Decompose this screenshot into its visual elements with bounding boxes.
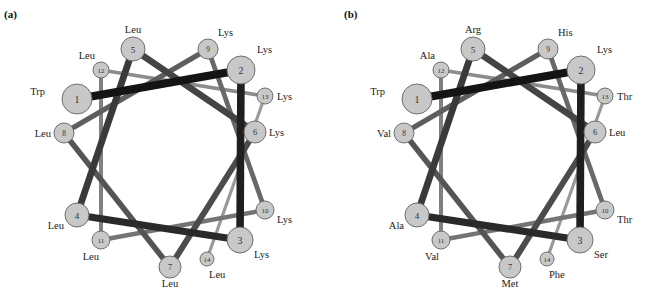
residue-name: Phe	[549, 269, 565, 280]
residue-name: Trp	[370, 86, 385, 97]
residue-node-12: 12Leu	[79, 50, 109, 78]
residue-number: 5	[131, 45, 136, 55]
residue-number: 1	[75, 94, 80, 105]
residue-number: 11	[98, 237, 105, 245]
residue-name: Arg	[465, 24, 482, 35]
residue-name: Leu	[209, 269, 226, 280]
residue-number: 9	[206, 45, 210, 54]
residue-number: 12	[438, 67, 446, 75]
residue-node-12: 12Ala	[420, 50, 449, 78]
residue-name: Val	[425, 251, 439, 262]
residue-node-6: 6Leu	[584, 121, 626, 143]
helix-connector-2-3	[580, 70, 581, 240]
residue-number: 6	[593, 128, 597, 137]
residue-node-8: 8Leu	[35, 123, 74, 143]
residue-node-13: 13Thr	[597, 88, 633, 104]
residue-number: 13	[602, 93, 610, 101]
residue-number: 4	[415, 211, 420, 221]
residue-node-7: 7Met	[499, 256, 521, 289]
residue-name: Lys	[257, 44, 272, 55]
residue-number: 2	[579, 65, 584, 76]
residue-node-6: 6Lys	[244, 121, 284, 143]
residue-name: Trp	[30, 86, 45, 97]
residue-number: 3	[238, 235, 243, 246]
residue-number: 3	[578, 235, 583, 246]
residue-node-1: 1Trp	[30, 84, 92, 114]
residue-node-9: 9Lys	[198, 27, 233, 59]
residue-name: Ser	[594, 249, 609, 260]
residue-number: 5	[471, 45, 476, 55]
residue-number: 14	[544, 256, 552, 264]
helical-wheel-panel-a: (a)1Trp2Lys3Lys4Leu5Leu6Lys7Leu8Leu9Lys1…	[4, 8, 292, 289]
residue-node-4: 4Ala	[389, 203, 429, 231]
residue-node-2: 2Lys	[567, 44, 612, 84]
residue-name: Lys	[254, 249, 269, 260]
panel-label: (a)	[4, 8, 17, 21]
residue-node-3: 3Lys	[227, 227, 269, 260]
residue-node-10: 10Lys	[256, 201, 292, 225]
residue-node-14: 14Phe	[540, 252, 565, 280]
residue-name: Ala	[389, 220, 405, 231]
residue-name: Leu	[35, 128, 52, 139]
residue-node-3: 3Ser	[567, 227, 609, 260]
residue-node-8: 8Val	[377, 123, 414, 143]
residue-node-13: 13Lys	[257, 88, 292, 104]
residue-name: Met	[502, 278, 519, 289]
residue-number: 8	[62, 129, 66, 138]
residue-number: 10	[602, 207, 610, 215]
residue-number: 7	[508, 263, 512, 272]
residue-name: Thr	[617, 91, 633, 102]
residue-name: Leu	[162, 278, 179, 289]
residue-node-14: 14Leu	[200, 252, 226, 280]
residue-node-4: 4Leu	[48, 203, 89, 231]
residue-number: 1	[415, 94, 420, 105]
residue-node-11: 11Leu	[83, 231, 110, 262]
residue-number: 2	[239, 65, 244, 76]
residue-name: Thr	[617, 214, 633, 225]
residue-number: 6	[253, 128, 257, 137]
residue-number: 11	[438, 237, 445, 245]
panel-label: (b)	[344, 8, 358, 21]
residue-name: Leu	[48, 220, 65, 231]
residue-number: 4	[75, 211, 80, 221]
residue-number: 7	[168, 263, 172, 272]
residue-name: Leu	[609, 127, 626, 138]
residue-name: Lys	[277, 91, 292, 102]
residue-node-7: 7Leu	[159, 256, 181, 289]
residue-number: 10	[262, 207, 270, 215]
residue-node-11: 11Val	[425, 231, 450, 262]
residue-name: Ala	[420, 50, 436, 61]
helix-connector-2-3	[240, 70, 241, 240]
residue-number: 13	[262, 93, 270, 101]
residue-node-9: 9His	[538, 27, 573, 59]
residue-node-10: 10Thr	[596, 201, 633, 225]
residue-node-2: 2Lys	[227, 44, 272, 84]
residue-name: Leu	[83, 251, 100, 262]
residue-name: His	[558, 27, 573, 38]
residue-name: Lys	[269, 127, 284, 138]
helical-wheel-panel-b: (b)1Trp2Lys3Ser4Ala5Arg6Leu7Met8Val9His1…	[344, 8, 633, 289]
residue-name: Leu	[79, 50, 96, 61]
residue-name: Lys	[277, 214, 292, 225]
residue-name: Lys	[218, 27, 233, 38]
residue-name: Leu	[125, 24, 142, 35]
residue-number: 14	[204, 256, 212, 264]
helical-wheel-figure: (a)1Trp2Lys3Lys4Leu5Leu6Lys7Leu8Leu9Lys1…	[0, 0, 662, 302]
residue-number: 8	[402, 129, 406, 138]
residue-node-1: 1Trp	[370, 84, 432, 114]
residue-number: 12	[98, 67, 106, 75]
residue-node-5: 5Leu	[121, 24, 145, 61]
residue-number: 9	[546, 45, 550, 54]
residue-name: Lys	[597, 44, 612, 55]
residue-node-5: 5Arg	[461, 24, 485, 61]
residue-name: Val	[377, 128, 391, 139]
